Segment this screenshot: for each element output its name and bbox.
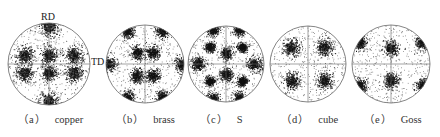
caption-tag: （a） bbox=[18, 114, 46, 125]
rd-axis-label: RD bbox=[41, 12, 55, 22]
caption-tag: （e） bbox=[364, 114, 392, 125]
caption-name: Goss bbox=[401, 114, 422, 125]
pole-figure-copper bbox=[8, 10, 90, 115]
td-axis-label: TD bbox=[91, 57, 104, 67]
caption-name: copper bbox=[55, 114, 84, 125]
pole-figure-brass bbox=[97, 19, 192, 109]
caption-name: S bbox=[237, 114, 243, 125]
caption-goss: （e）Goss bbox=[364, 114, 422, 126]
caption-cube: （d）cube bbox=[281, 114, 338, 126]
caption-name: brass bbox=[153, 114, 175, 125]
caption-copper: （a）copper bbox=[18, 114, 83, 126]
caption-tag: （c） bbox=[200, 114, 228, 125]
caption-tag: （b） bbox=[116, 114, 144, 125]
caption-name: cube bbox=[318, 114, 338, 125]
pole-figure-cube bbox=[270, 26, 346, 103]
pole-figure-s bbox=[187, 20, 266, 109]
pole-figure-goss bbox=[349, 25, 434, 103]
caption-tag: （d） bbox=[281, 114, 309, 125]
caption-s: （c）S bbox=[200, 114, 243, 126]
caption-brass: （b）brass bbox=[116, 114, 175, 126]
